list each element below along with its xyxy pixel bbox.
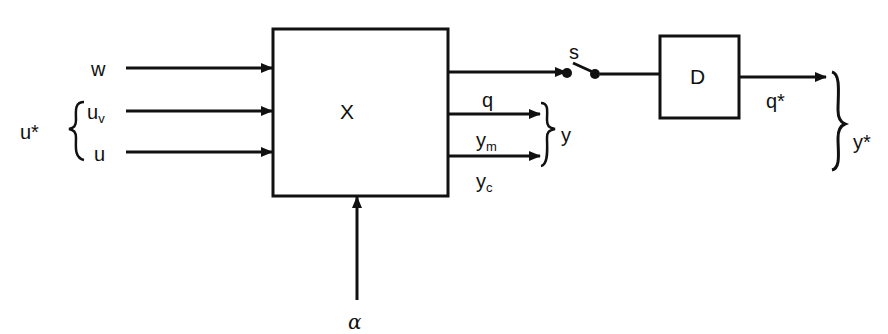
input-uv-main: u [87,101,98,123]
switch-contact-left [562,68,572,78]
output-ym-sub: m [486,139,497,154]
switch-label: s [569,42,579,62]
output-ym-main: y [476,129,486,151]
u-star-label: u* [20,122,39,142]
output-yc-main: y [476,170,486,192]
y-group-label: y [561,125,571,145]
block-d-label: D [690,66,705,87]
brace-u-star [69,102,84,160]
y-star-label: y* [853,132,871,152]
output-yc-label: yc [476,171,493,191]
switch-contact-right [590,69,600,79]
q-star-label: q* [766,91,785,111]
alpha-label: α [348,312,362,332]
block-x-label: X [340,101,354,122]
output-q-label: q [482,90,493,110]
block-diagram [0,0,888,334]
input-w-label: w [91,59,105,79]
input-uv-label: uv [87,102,105,122]
output-yc-sub: c [486,180,493,195]
input-uv-sub: v [98,111,105,126]
block-x [273,29,448,196]
brace-y [541,103,555,166]
output-ym-label: ym [476,130,497,150]
input-u-label: u [94,144,105,164]
brace-y-star [832,72,845,170]
